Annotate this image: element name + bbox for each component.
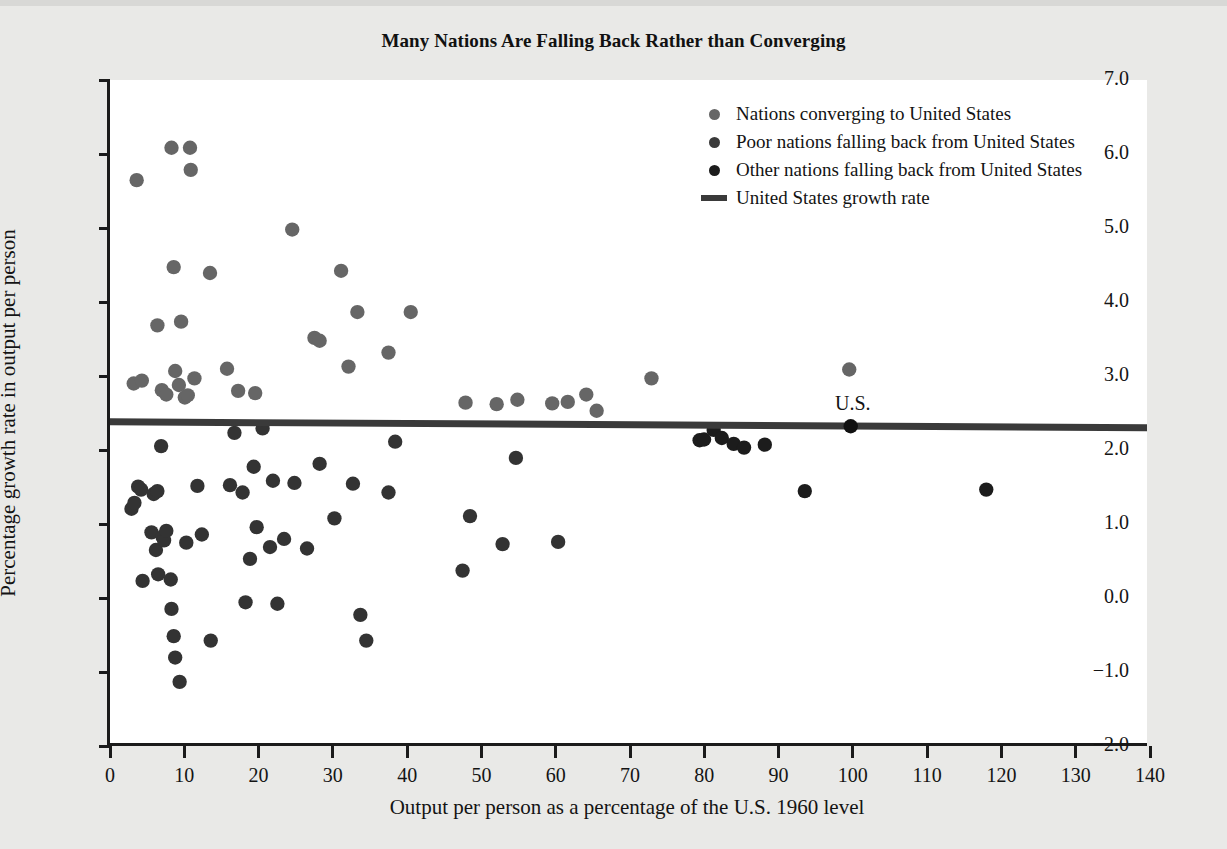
legend-item-label: United States growth rate	[728, 187, 930, 209]
figure-page: Many Nations Are Falling Back Rather tha…	[0, 0, 1227, 849]
data-point	[334, 264, 348, 278]
data-point	[842, 362, 856, 376]
x-tick-mark	[554, 746, 557, 758]
data-point	[248, 386, 262, 400]
data-point	[277, 532, 291, 546]
data-point	[346, 477, 360, 491]
legend-item-label: Other nations falling back from United S…	[728, 159, 1082, 181]
data-point	[561, 395, 575, 409]
y-tick-mark	[99, 301, 110, 304]
data-point	[135, 373, 149, 387]
y-tick-mark	[99, 671, 110, 674]
legend-item-2[interactable]: Other nations falling back from United S…	[700, 157, 1082, 183]
data-point	[151, 567, 165, 581]
series-2	[692, 423, 993, 498]
data-point	[183, 141, 197, 155]
data-point	[510, 393, 524, 407]
data-point	[404, 305, 418, 319]
data-point	[509, 451, 523, 465]
y-tick-label: 5.0	[1104, 215, 1129, 238]
x-tick-mark	[926, 746, 929, 758]
data-point	[164, 572, 178, 586]
data-point	[300, 541, 314, 555]
x-tick-mark	[1074, 746, 1077, 758]
us-data-point	[844, 419, 858, 433]
data-point	[353, 608, 367, 622]
y-tick-label: 1.0	[1104, 511, 1129, 534]
data-point	[129, 173, 143, 187]
data-point	[381, 345, 395, 359]
data-point	[312, 334, 326, 348]
x-tick-label: 90	[769, 764, 789, 787]
data-point	[266, 474, 280, 488]
data-point	[168, 364, 182, 378]
legend-dot-icon	[700, 137, 728, 148]
data-point	[164, 602, 178, 616]
data-point	[195, 527, 209, 541]
data-point	[179, 535, 193, 549]
x-tick-mark	[629, 746, 632, 758]
x-tick-label: 110	[913, 764, 942, 787]
x-tick-label: 0	[105, 764, 115, 787]
data-point	[127, 496, 141, 510]
x-tick-mark	[777, 746, 780, 758]
data-point	[737, 440, 751, 454]
x-tick-label: 30	[323, 764, 343, 787]
data-point	[231, 384, 245, 398]
dot-swatch	[709, 165, 720, 176]
data-point	[388, 435, 402, 449]
data-point	[263, 540, 277, 554]
data-point	[247, 460, 261, 474]
data-point	[167, 629, 181, 643]
legend-item-1[interactable]: Poor nations falling back from United St…	[700, 129, 1082, 155]
page-title: Many Nations Are Falling Back Rather tha…	[0, 30, 1227, 52]
data-point	[159, 387, 173, 401]
data-point	[579, 387, 593, 401]
series-1	[124, 421, 565, 689]
data-point	[164, 141, 178, 155]
data-point	[285, 222, 299, 236]
data-point	[181, 388, 195, 402]
x-tick-label: 130	[1061, 764, 1091, 787]
x-axis-title: Output per person as a percentage of the…	[107, 795, 1147, 820]
data-point	[458, 395, 472, 409]
dot-swatch	[709, 109, 720, 120]
data-point	[243, 552, 257, 566]
x-tick-mark	[331, 746, 334, 758]
data-point	[463, 509, 477, 523]
legend-item-label: Poor nations falling back from United St…	[728, 131, 1075, 153]
line-swatch	[701, 195, 727, 201]
x-tick-label: 50	[471, 764, 491, 787]
dot-swatch	[709, 137, 720, 148]
x-tick-mark	[703, 746, 706, 758]
y-tick-label: 2.0	[1104, 437, 1129, 460]
data-point	[249, 520, 263, 534]
data-point	[312, 457, 326, 471]
y-tick-mark	[99, 153, 110, 156]
data-point	[545, 396, 559, 410]
data-point	[172, 675, 186, 689]
data-point	[134, 482, 148, 496]
y-tick-mark	[99, 227, 110, 230]
y-tick-label: 6.0	[1104, 141, 1129, 164]
y-tick-label: −2.0	[1093, 733, 1129, 756]
y-tick-label: 4.0	[1104, 289, 1129, 312]
x-tick-label: 60	[546, 764, 566, 787]
data-point	[327, 511, 341, 525]
x-tick-label: 70	[620, 764, 640, 787]
data-point	[235, 485, 249, 499]
data-point	[220, 362, 234, 376]
us-annotation-label: U.S.	[835, 392, 871, 415]
data-point	[184, 163, 198, 177]
legend-item-3[interactable]: United States growth rate	[700, 185, 1082, 211]
legend-dot-icon	[700, 109, 728, 120]
x-tick-label: 80	[694, 764, 714, 787]
data-point	[203, 266, 217, 280]
legend-item-label: Nations converging to United States	[728, 103, 1011, 125]
data-point	[350, 305, 364, 319]
legend-item-0[interactable]: Nations converging to United States	[700, 101, 1082, 127]
data-point	[798, 484, 812, 498]
data-point	[238, 595, 252, 609]
x-tick-mark	[406, 746, 409, 758]
y-tick-label: 0.0	[1104, 585, 1129, 608]
